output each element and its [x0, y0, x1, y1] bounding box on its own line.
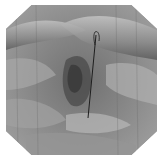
tissue-illustration [6, 5, 157, 155]
endoscope-view [6, 5, 157, 155]
